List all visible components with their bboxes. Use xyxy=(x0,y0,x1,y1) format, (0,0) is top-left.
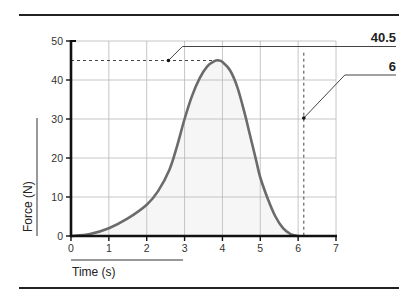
y-tick-label: 20 xyxy=(51,152,63,164)
y-tick-label: 50 xyxy=(51,35,63,47)
x-tick-label: 0 xyxy=(68,242,74,254)
y-tick-label: 40 xyxy=(51,74,63,86)
peak-leader-line xyxy=(168,47,396,61)
y-tick-label: 30 xyxy=(51,113,63,125)
time-pointer-dot xyxy=(302,116,306,120)
force-time-chart: 0102030405001234567 Force (N) Time (s) 4… xyxy=(0,0,418,306)
x-tick-label: 7 xyxy=(333,242,339,254)
x-tick-label: 3 xyxy=(182,242,188,254)
x-tick-label: 5 xyxy=(257,242,263,254)
time-leader-line xyxy=(304,75,396,118)
y-tick-label: 10 xyxy=(51,191,63,203)
x-tick-label: 2 xyxy=(144,242,150,254)
y-tick-label: 0 xyxy=(57,230,63,242)
x-tick-label: 1 xyxy=(106,242,112,254)
x-tick-label: 6 xyxy=(295,242,301,254)
x-tick-label: 4 xyxy=(220,242,226,254)
peak-pointer-dot xyxy=(167,59,171,63)
chart-canvas: 0102030405001234567 Force (N) Time (s) 4… xyxy=(0,0,418,306)
y-axis-title: Force (N) xyxy=(21,181,35,232)
annotation-label-peak: 40.5 xyxy=(371,30,396,45)
x-axis-title: Time (s) xyxy=(72,265,116,279)
annotation-label-time: 6 xyxy=(389,59,396,74)
